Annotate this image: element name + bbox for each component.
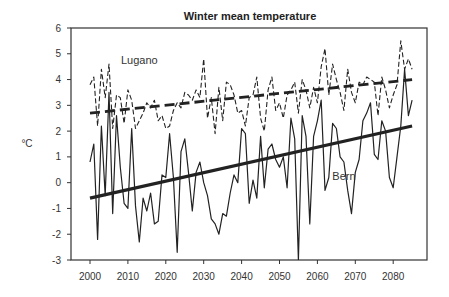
series-layer — [90, 41, 412, 260]
bern-line — [90, 69, 412, 260]
y-tick-label: -1 — [52, 203, 61, 214]
chart-title: Winter mean temperature — [184, 10, 317, 22]
label-bern: Bern — [332, 170, 355, 182]
y-tick-label: 3 — [55, 100, 61, 111]
x-tick-label: 2030 — [193, 271, 216, 282]
x-tick-label: 2070 — [344, 271, 367, 282]
x-tick-label: 2020 — [155, 271, 178, 282]
y-tick-label: 4 — [55, 74, 61, 85]
y-tick-label: 1 — [55, 151, 61, 162]
label-lugano: Lugano — [121, 54, 158, 66]
chart-figure: Winter mean temperature °C -3-2-10123456… — [0, 0, 449, 297]
y-tick-label: 6 — [55, 23, 61, 34]
x-tick-label: 2000 — [79, 271, 102, 282]
x-tick-label: 2080 — [382, 271, 405, 282]
x-tick-label: 2010 — [117, 271, 140, 282]
lugano-trend-line — [90, 80, 412, 114]
x-tick-label: 2040 — [230, 271, 253, 282]
y-axis-label: °C — [21, 138, 32, 149]
y-tick-label: 2 — [55, 126, 61, 137]
x-tick-label: 2050 — [268, 271, 291, 282]
y-tick-label: 0 — [55, 177, 61, 188]
y-tick-label: -2 — [52, 229, 61, 240]
y-axis: -3-2-10123456 — [52, 23, 71, 266]
bern-trend-line — [90, 126, 412, 198]
x-axis: 200020102020203020402050206020702080 — [79, 260, 405, 282]
y-tick-label: 5 — [55, 48, 61, 59]
x-tick-label: 2060 — [306, 271, 329, 282]
y-tick-label: -3 — [52, 255, 61, 266]
